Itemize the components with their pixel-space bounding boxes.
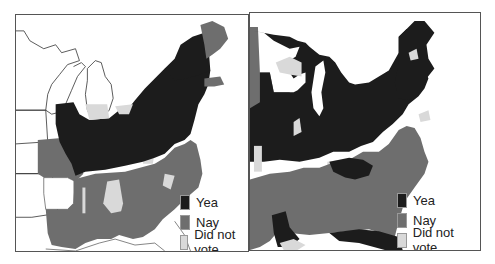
- legend-label: Did not vote: [413, 225, 480, 251]
- region-dnv-west: [254, 146, 262, 172]
- map-panel-right: Yea Nay Did not vote: [249, 12, 481, 251]
- region-dnv-nj: [419, 110, 431, 122]
- swatch-yea: [397, 193, 407, 208]
- region-arkansas-none: [44, 178, 76, 210]
- legend-left: Yea Nay Did not vote: [180, 192, 248, 252]
- legend-item-did-not-vote: Did not vote: [180, 232, 248, 252]
- swatch-did-not-vote: [180, 235, 188, 250]
- legend-right: Yea Nay Did not vote: [397, 190, 480, 250]
- legend-item-did-not-vote: Did not vote: [397, 230, 480, 250]
- swatch-nay: [180, 215, 190, 230]
- swatch-nay: [397, 213, 407, 228]
- region-dnv-2: [82, 188, 85, 214]
- region-newengland-yea: [395, 21, 435, 100]
- map-panel-left: Yea Nay Did not vote: [15, 14, 249, 252]
- swatch-did-not-vote: [397, 233, 407, 248]
- region-dnv-north-1: [85, 104, 109, 120]
- legend-item-yea: Yea: [180, 192, 248, 212]
- swatch-yea: [180, 195, 190, 210]
- legend-label: Did not vote: [194, 227, 248, 252]
- legend-item-yea: Yea: [397, 190, 480, 210]
- legend-label: Yea: [196, 195, 218, 210]
- legend-label: Yea: [413, 193, 435, 208]
